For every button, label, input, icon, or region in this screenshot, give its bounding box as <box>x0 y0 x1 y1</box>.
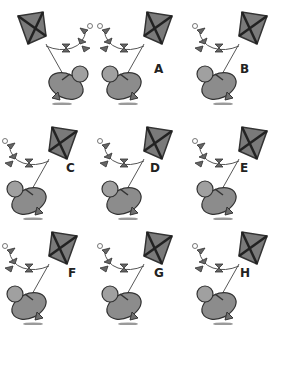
kite-boy-icon <box>0 0 95 105</box>
option-c[interactable] <box>0 115 95 220</box>
option-b[interactable] <box>190 0 285 105</box>
kite-boy-icon <box>190 220 285 325</box>
option-c-label: C <box>66 161 75 175</box>
option-d-label: D <box>150 161 160 175</box>
kite-boy-icon <box>190 0 285 105</box>
option-a[interactable] <box>95 0 190 105</box>
option-a-label: A <box>154 62 163 76</box>
option-e-label: E <box>240 161 248 175</box>
kite-boy-icon <box>95 220 190 325</box>
option-e[interactable] <box>190 115 285 220</box>
option-d[interactable] <box>95 115 190 220</box>
option-b-label: B <box>240 62 249 76</box>
option-f-label: F <box>68 266 76 280</box>
option-h[interactable] <box>190 220 285 325</box>
reference-figure <box>0 0 95 105</box>
option-g-label: G <box>154 266 164 280</box>
kite-boy-icon <box>95 0 190 105</box>
kite-boy-icon <box>95 115 190 220</box>
kite-boy-icon <box>0 115 95 220</box>
option-f[interactable] <box>0 220 95 325</box>
option-g[interactable] <box>95 220 190 325</box>
kite-boy-icon <box>0 220 95 325</box>
option-h-label: H <box>240 266 250 280</box>
kite-boy-icon <box>190 115 285 220</box>
